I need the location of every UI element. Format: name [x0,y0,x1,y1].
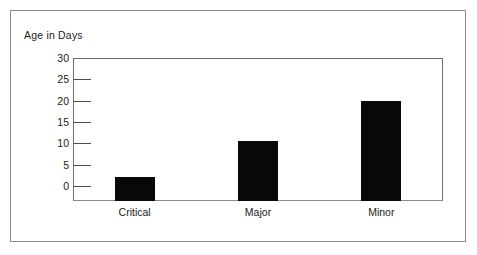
x-axis-tick-label-critical: Critical [119,206,151,218]
figure-container: Age in Days 051015202530 CriticalMajorMi… [0,0,477,255]
x-axis-tick-label-major: Major [245,206,271,218]
x-axis-labels: CriticalMajorMinor [0,0,477,255]
x-axis-tick-label-minor: Minor [368,206,394,218]
